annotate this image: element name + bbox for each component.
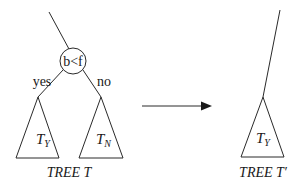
decision-node-label: b<f	[63, 54, 83, 69]
tree-transformation-diagram: b<f yes no TY TN TREE T TY TREE T′	[0, 0, 301, 186]
subtree-ty-prime-label: TY	[256, 130, 271, 148]
subtree-tn-triangle	[79, 97, 123, 158]
tree-t-caption: TREE T	[47, 165, 93, 180]
yes-branch-label: yes	[33, 74, 52, 89]
subtree-tn-label: TN	[96, 131, 112, 149]
tree-t-prime: TY TREE T′	[239, 10, 288, 180]
parent-edge-prime	[263, 10, 280, 97]
transform-arrow	[142, 102, 212, 111]
parent-edge	[49, 12, 69, 49]
subtree-ty-prime-triangle	[241, 97, 284, 157]
tree-t: b<f yes no TY TN TREE T	[16, 12, 123, 180]
arrow-head-icon	[201, 102, 212, 111]
no-branch-label: no	[97, 74, 111, 89]
subtree-ty-triangle	[16, 97, 59, 158]
tree-t-prime-caption: TREE T′	[239, 165, 288, 180]
subtree-ty-label: TY	[36, 131, 51, 149]
